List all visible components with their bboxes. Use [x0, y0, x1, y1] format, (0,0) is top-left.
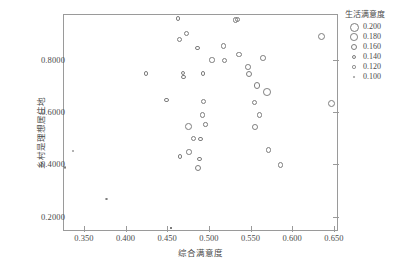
x-axis-tick — [126, 226, 127, 232]
legend-marker-icon — [345, 44, 363, 50]
x-axis-tick-label: 0.650 — [324, 233, 343, 243]
legend-item-label: 0.180 — [363, 32, 381, 42]
x-axis-tick-label: 0.350 — [74, 233, 93, 243]
legend-item-label: 0.160 — [363, 42, 381, 52]
legend-title: 生活满意度 — [345, 8, 409, 19]
size-legend: 生活满意度 0.2000.1800.1600.1400.1200.100 — [345, 8, 409, 82]
x-axis-tick — [84, 226, 85, 232]
legend-item-label: 0.100 — [363, 72, 381, 82]
x-axis-tick — [251, 226, 252, 232]
legend-item[interactable]: 0.160 — [345, 42, 409, 52]
x-axis-tick-label: 0.400 — [116, 233, 135, 243]
chart-root: 0.80000.60000.40000.20000.3500.4000.4500… — [0, 0, 410, 266]
legend-item[interactable]: 0.200 — [345, 22, 409, 32]
legend-marker-icon — [345, 65, 363, 68]
y-axis-tick-label: 0.8000 — [41, 55, 65, 65]
legend-item-label: 0.200 — [363, 22, 381, 32]
y-axis-tick — [333, 217, 339, 218]
y-axis-tick — [333, 112, 339, 113]
x-axis-tick — [209, 226, 210, 232]
legend-marker-icon — [345, 23, 363, 32]
legend-marker-icon — [345, 55, 363, 60]
legend-entries: 0.2000.1800.1600.1400.1200.100 — [345, 22, 409, 82]
x-axis-tick — [292, 226, 293, 232]
plot-area — [63, 14, 338, 231]
legend-marker-icon — [345, 33, 363, 41]
x-axis-tick — [334, 226, 335, 232]
legend-marker-icon — [345, 76, 363, 78]
legend-item[interactable]: 0.120 — [345, 62, 409, 72]
x-axis-tick-label: 0.500 — [199, 233, 218, 243]
legend-item[interactable]: 0.180 — [345, 32, 409, 42]
y-axis-tick-label: 0.2000 — [41, 212, 65, 222]
x-axis-title: 综合满意度 — [178, 246, 223, 258]
x-axis-tick-label: 0.550 — [241, 233, 260, 243]
y-axis-tick — [333, 164, 339, 165]
x-axis-tick-label: 0.450 — [158, 233, 177, 243]
x-axis-tick — [167, 226, 168, 232]
legend-item-label: 0.120 — [363, 62, 381, 72]
legend-item[interactable]: 0.140 — [345, 52, 409, 62]
x-axis-tick-label: 0.600 — [283, 233, 302, 243]
y-axis-tick — [333, 60, 339, 61]
legend-item-label: 0.140 — [363, 52, 381, 62]
y-axis-title: 乡村是理想居住地 — [34, 97, 46, 169]
legend-item[interactable]: 0.100 — [345, 72, 409, 82]
